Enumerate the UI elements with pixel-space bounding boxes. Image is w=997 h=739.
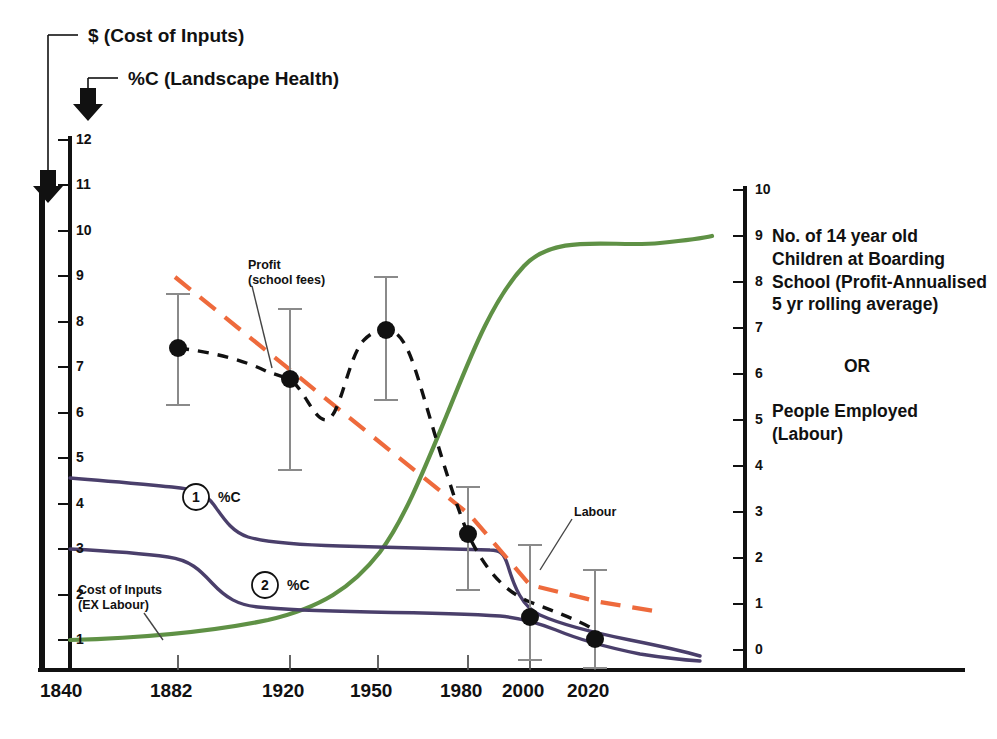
- left-tick-label: 12: [76, 131, 92, 147]
- profit-annotation: Profit (school fees): [248, 258, 325, 289]
- x-axis-ticks: [178, 655, 595, 670]
- x-tick-label: 1920: [262, 680, 304, 702]
- left-tick-label: 5: [76, 449, 84, 465]
- right-tick-label: 2: [755, 549, 763, 565]
- right-tick-label: 7: [755, 319, 763, 335]
- data-point: [586, 630, 604, 648]
- labour-leader-line: [540, 519, 572, 570]
- right-caption-primary: No. of 14 year old Children at Boarding …: [772, 225, 987, 316]
- left-tick-label: 11: [76, 176, 91, 192]
- series-labour-line: [175, 277, 660, 612]
- left-tick-label: 2: [76, 586, 84, 602]
- left-tick-label: 6: [76, 404, 84, 420]
- series-2-label: %C: [287, 577, 310, 593]
- profit-annotation-subtitle: (school fees): [248, 273, 325, 288]
- data-point: [377, 321, 395, 339]
- right-caption-or: OR: [772, 355, 942, 378]
- series-cost-of-inputs-line: [70, 236, 712, 640]
- right-tick-label: 5: [755, 411, 763, 427]
- series-2-badge-number: 2: [261, 577, 269, 593]
- cost-of-inputs-subtitle: (EX Labour): [78, 598, 162, 613]
- cost-of-inputs-annotation: Cost of Inputs (EX Labour): [78, 583, 162, 614]
- right-tick-label: 8: [755, 273, 763, 289]
- right-tick-label: 10: [755, 181, 771, 197]
- labour-annotation: Labour: [574, 505, 616, 520]
- x-tick-label: 1980: [440, 680, 482, 702]
- data-point: [521, 608, 539, 626]
- data-point: [281, 370, 299, 388]
- left-tick-label: 1: [76, 631, 84, 647]
- series-1-label: %C: [218, 489, 241, 505]
- dollar-axis-note: $ (Cost of Inputs): [88, 25, 244, 47]
- left-tick-label: 9: [76, 267, 84, 283]
- profit-annotation-title: Profit: [248, 258, 325, 273]
- right-tick-label: 1: [755, 595, 763, 611]
- x-tick-label: 1950: [350, 680, 392, 702]
- right-caption-secondary: People Employed (Labour): [772, 400, 987, 446]
- left-tick-label: 3: [76, 540, 84, 556]
- chart-canvas: $ (Cost of Inputs) %C (Landscape Health)…: [0, 0, 997, 739]
- right-tick-label: 4: [755, 457, 763, 473]
- x-tick-label: 1840: [40, 680, 82, 702]
- series-1-badge-number: 1: [192, 489, 200, 505]
- data-point: [169, 339, 187, 357]
- x-tick-label: 2020: [567, 680, 609, 702]
- profit-leader-line: [252, 286, 272, 368]
- x-tick-label: 2000: [502, 680, 544, 702]
- right-tick-label: 9: [755, 227, 763, 243]
- left-tick-label: 7: [76, 358, 84, 374]
- right-tick-label: 3: [755, 503, 763, 519]
- percentC-axis-note: %C (Landscape Health): [128, 68, 339, 90]
- right-tick-label: 0: [755, 641, 763, 657]
- data-point: [459, 525, 477, 543]
- cost-of-inputs-title: Cost of Inputs: [78, 583, 162, 598]
- left-tick-label: 10: [76, 222, 92, 238]
- left-tick-label: 8: [76, 313, 84, 329]
- percentC-axis-pointer: [73, 78, 118, 121]
- right-tick-label: 6: [755, 365, 763, 381]
- x-tick-label: 1882: [150, 680, 192, 702]
- left-tick-label: 4: [76, 495, 84, 511]
